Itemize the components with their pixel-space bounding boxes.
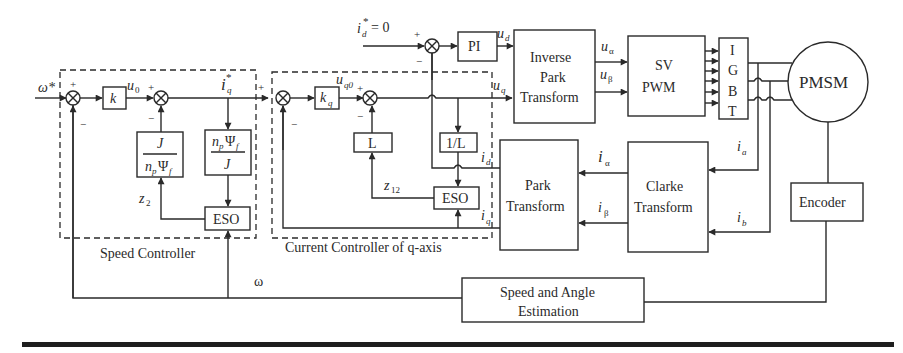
svg-text:+: +	[414, 28, 420, 40]
svg-text:PI: PI	[468, 39, 481, 54]
svg-text:α: α	[605, 158, 610, 168]
svg-text:2: 2	[146, 198, 151, 208]
svg-text:1/L: 1/L	[446, 136, 465, 151]
svg-text:q: q	[227, 85, 232, 95]
svg-text:+: +	[70, 78, 76, 90]
svg-text:b: b	[742, 218, 747, 228]
summing-junction-disturbance	[154, 91, 168, 105]
svg-text:Estimation: Estimation	[518, 304, 579, 319]
svg-text:L: L	[368, 136, 377, 151]
svg-text:i: i	[481, 150, 485, 165]
bottom-rule	[22, 342, 894, 347]
svg-text:n: n	[145, 159, 152, 174]
svg-text:+: +	[148, 81, 154, 93]
svg-text:u: u	[601, 39, 608, 54]
svg-text:p: p	[218, 141, 224, 151]
clarke-transform-block	[628, 142, 708, 252]
park-transform-block	[500, 140, 578, 250]
svg-text:J: J	[157, 136, 164, 151]
svg-text:i: i	[598, 200, 602, 215]
svg-text:q0: q0	[344, 80, 354, 90]
svg-text:PWM: PWM	[642, 80, 676, 95]
svg-text:Transform: Transform	[506, 199, 565, 214]
svg-text:Transform: Transform	[520, 90, 579, 105]
summing-junction-decoupling	[363, 91, 377, 105]
svg-text:−: −	[80, 118, 86, 130]
svg-text:n: n	[212, 134, 219, 149]
pmsm-control-diagram: Speed Controller Current Controller of q…	[0, 0, 903, 353]
svg-text:z: z	[383, 178, 390, 193]
svg-text:Park: Park	[525, 178, 551, 193]
summing-junction-current	[276, 91, 290, 105]
svg-text:ESO: ESO	[442, 191, 468, 206]
svg-text:B: B	[728, 84, 737, 99]
svg-text:−: −	[148, 112, 154, 124]
svg-text:i: i	[598, 147, 603, 166]
svg-text:Transform: Transform	[634, 200, 693, 215]
svg-text:d: d	[486, 157, 491, 167]
svg-text:G: G	[728, 63, 738, 78]
svg-text:*: *	[226, 71, 232, 83]
svg-text:Park: Park	[540, 70, 566, 85]
svg-text:Ψ: Ψ	[158, 159, 169, 174]
svg-text:z: z	[138, 191, 145, 206]
svg-text:I: I	[730, 43, 735, 58]
svpwm-block	[628, 36, 705, 116]
svg-text:i: i	[737, 210, 741, 225]
current-controller-group	[272, 72, 492, 238]
svg-text:i: i	[737, 139, 741, 154]
svg-text:Ψ: Ψ	[225, 134, 236, 149]
svg-text:PMSM: PMSM	[799, 73, 848, 92]
svg-text:β: β	[608, 74, 613, 84]
svg-text:k: k	[110, 91, 117, 106]
svg-text:q: q	[486, 216, 491, 226]
svg-text:u: u	[127, 78, 134, 93]
svg-text:β: β	[604, 208, 609, 218]
svg-text:T: T	[728, 104, 737, 119]
omega-feedback-label: ω	[254, 274, 263, 289]
omega-ref-label: ω*	[38, 80, 55, 95]
svg-text:Speed and Angle: Speed and Angle	[500, 285, 595, 300]
summing-junction-d-axis	[425, 39, 439, 53]
svg-text:0: 0	[135, 85, 140, 95]
svg-text:Encoder: Encoder	[799, 195, 846, 210]
svg-text:i: i	[481, 208, 485, 223]
svg-text:u: u	[497, 26, 504, 41]
summing-junction-speed	[66, 91, 80, 105]
svg-text:−: −	[357, 110, 363, 122]
svg-text:J: J	[224, 157, 231, 172]
svg-text:u: u	[493, 78, 500, 93]
svg-text:+: +	[357, 82, 363, 94]
svg-text:SV: SV	[655, 58, 673, 73]
svg-text:a: a	[742, 147, 747, 157]
svg-text:i: i	[357, 21, 361, 36]
svg-text:−: −	[416, 55, 422, 67]
svg-text:q: q	[501, 85, 506, 95]
svg-text:p: p	[151, 166, 157, 176]
svg-text:= 0: = 0	[371, 20, 389, 35]
svg-text:u: u	[600, 67, 607, 82]
svg-text:Inverse: Inverse	[530, 50, 571, 65]
svg-text:d: d	[362, 29, 367, 39]
svg-text:12: 12	[391, 185, 400, 195]
svg-text:*: *	[363, 15, 369, 27]
svg-text:k: k	[320, 90, 327, 105]
svg-text:q: q	[328, 98, 333, 108]
pwm-signal-arrows	[705, 51, 718, 103]
current-controller-label: Current Controller of q-axis	[285, 240, 442, 255]
svg-text:α: α	[609, 46, 614, 56]
svg-text:+: +	[258, 81, 264, 93]
gain-kq-block	[315, 87, 339, 109]
svg-text:d: d	[505, 33, 510, 43]
svg-text:Clarke: Clarke	[646, 179, 683, 194]
svg-text:u: u	[336, 72, 343, 87]
speed-controller-label: Speed Controller	[100, 246, 196, 261]
svg-text:−: −	[291, 118, 297, 130]
svg-text:ESO: ESO	[213, 212, 239, 227]
